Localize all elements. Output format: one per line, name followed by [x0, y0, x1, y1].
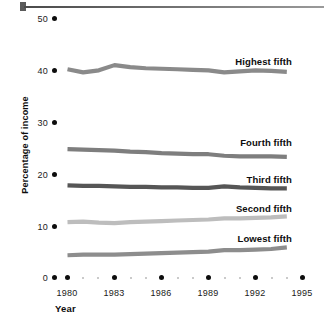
series-line-second-fifth [68, 216, 287, 223]
plot-area [0, 0, 326, 330]
series-line-third-fifth [68, 185, 287, 188]
series-line-fourth-fifth [68, 149, 287, 157]
series-line-lowest-fifth [68, 247, 287, 255]
series-line-highest-fifth [68, 65, 287, 72]
income-share-line-chart: Percentage of income 50 40 30 20 10 0 19… [0, 0, 326, 330]
